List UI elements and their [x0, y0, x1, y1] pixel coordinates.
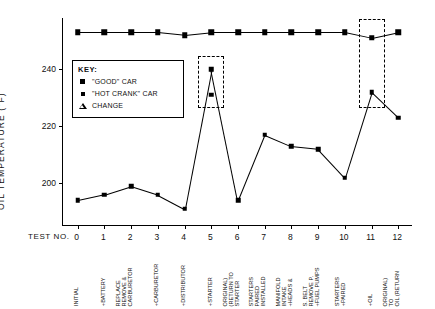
data-line-segment [131, 186, 158, 195]
x-axis-tick [158, 225, 159, 229]
data-line-segment [158, 32, 185, 36]
data-point-good-car [262, 29, 268, 35]
y-axis-tick-label: 200 [42, 178, 56, 188]
x-axis-tick [211, 225, 212, 229]
legend-label-good-car: "GOOD" CAR [92, 78, 137, 87]
plot-area: 200220240 [62, 18, 412, 226]
data-point-good-car [315, 29, 321, 35]
filled-square-small-icon [78, 92, 87, 96]
x-axis-tick [372, 225, 373, 229]
x-axis-tick [185, 225, 186, 229]
x-axis-tick-label: 3 [154, 232, 159, 242]
data-point-good-car [209, 29, 215, 35]
data-point-good-car [182, 32, 188, 38]
data-line-segment [185, 32, 212, 36]
data-point-hot-crank-car [182, 207, 187, 212]
data-point-hot-crank-car [316, 147, 321, 152]
data-line-segment [291, 146, 318, 150]
data-line-segment [265, 32, 292, 33]
data-point-hot-crank-car [236, 198, 241, 203]
y-axis-tick [59, 126, 63, 127]
open-triangle-icon [78, 103, 87, 109]
data-line-segment [211, 32, 238, 33]
filled-square-large-icon [78, 79, 87, 84]
data-point-hot-crank-car [75, 198, 80, 203]
x-axis-tick-label: 11 [366, 232, 375, 242]
annotation-dashed-box [359, 19, 385, 109]
data-line-segment [291, 32, 318, 33]
x-axis-tick-label: 7 [261, 232, 266, 242]
x-axis-tick-label: 0 [74, 232, 79, 242]
x-axis-tick-label: 10 [339, 232, 348, 242]
data-point-hot-crank-car [343, 175, 348, 180]
data-line-segment [104, 32, 131, 33]
data-point-good-car [235, 29, 241, 35]
data-point-hot-crank-car [156, 192, 161, 197]
x-axis-tick-label: 6 [235, 232, 240, 242]
y-axis-tick-label: 220 [42, 121, 56, 131]
y-axis-title-text: OIL TEMPERATURE (°F) [0, 92, 6, 210]
data-line-segment [238, 135, 266, 201]
data-point-good-car [75, 29, 81, 35]
legend-label-hot-crank-car: "HOT CRANK" CAR [92, 90, 158, 99]
legend: KEY: "GOOD" CAR "HOT CRANK" CAR CHANGE [72, 60, 184, 118]
y-axis-tick [59, 69, 63, 70]
legend-title: KEY: [78, 65, 178, 74]
y-axis-tick-label: 240 [42, 64, 56, 74]
legend-entry-hot-crank-car: "HOT CRANK" CAR [78, 89, 178, 98]
x-axis-tick-label: 9 [315, 232, 320, 242]
x-axis-tick [104, 225, 105, 229]
x-axis-tick-label: 5 [208, 232, 213, 242]
x-axis-tick [345, 225, 346, 229]
x-axis-tick-label: 12 [393, 232, 402, 242]
x-axis-tick [238, 225, 239, 229]
x-axis-tick [318, 225, 319, 229]
data-point-good-car [289, 29, 295, 35]
x-axis-tick [291, 225, 292, 229]
data-point-good-car [155, 29, 161, 35]
data-point-hot-crank-car [102, 192, 107, 197]
data-point-good-car [102, 29, 108, 35]
data-line-segment [78, 32, 105, 33]
data-line-segment [157, 195, 184, 210]
legend-label-change: CHANGE [92, 102, 123, 111]
x-axis-tick-label: 2 [128, 232, 133, 242]
data-point-hot-crank-car [262, 133, 267, 138]
data-point-good-car [396, 29, 402, 35]
data-line-segment [78, 195, 105, 202]
legend-entry-good-car: "GOOD" CAR [78, 77, 178, 86]
data-line-segment [264, 135, 291, 147]
data-line-segment [317, 149, 344, 178]
y-axis-title: OIL TEMPERATURE (°F) [6, 40, 20, 210]
data-line-segment [104, 186, 131, 195]
data-point-hot-crank-car [129, 184, 134, 189]
data-point-hot-crank-car [289, 144, 294, 149]
x-axis-tick-label: 8 [288, 232, 293, 242]
x-axis-tick [398, 225, 399, 229]
chart-root: OIL TEMPERATURE (°F) 200220240 KEY: "GOO… [0, 0, 435, 309]
x-axis-title: TEST NO. [28, 232, 70, 241]
legend-entry-change: CHANGE [78, 101, 178, 110]
x-axis-tick-label: 1 [101, 232, 106, 242]
x-axis-tick-label: 4 [181, 232, 186, 242]
x-axis-tick [78, 225, 79, 229]
data-point-hot-crank-car [396, 115, 401, 120]
data-point-good-car [342, 29, 348, 35]
x-axis-tick [131, 225, 132, 229]
data-line-segment [318, 32, 345, 33]
data-point-good-car [128, 29, 134, 35]
x-axis-tick [265, 225, 266, 229]
data-line-segment [238, 32, 265, 33]
annotation-dashed-box [198, 56, 224, 109]
y-axis-tick [59, 183, 63, 184]
data-line-segment [131, 32, 158, 33]
